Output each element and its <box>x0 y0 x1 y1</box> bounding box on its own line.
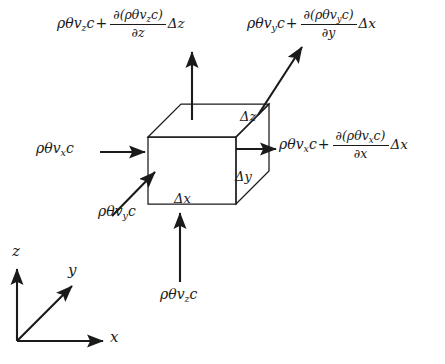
flux-top-z-denominator: ∂z <box>110 25 166 39</box>
label-axis-z: z <box>12 244 20 260</box>
flux-right-x-denominator: ∂x <box>333 146 389 160</box>
flux-top-z-delta: Δz <box>168 15 185 31</box>
flux-top-y-fraction: ∂(ρθvyc) ∂y <box>301 8 357 40</box>
flux-top-z-operator: + <box>94 15 108 31</box>
flux-top-z-numerator: ∂(ρθvzc) <box>110 8 166 25</box>
label-edge-dz: Δz <box>240 110 256 124</box>
flux-right-x-operator: + <box>317 136 331 152</box>
label-bottom-z-flux: ρθvzc <box>160 287 197 304</box>
figure-canvas: ρθvzc+ ∂(ρθvzc) ∂z Δz ρθvyc+ ∂(ρθvyc) ∂y… <box>0 0 445 364</box>
label-left-x-flux: ρθvxc <box>36 141 74 158</box>
label-top-z-flux: ρθvzc+ ∂(ρθvzc) ∂z Δz <box>57 8 185 40</box>
flux-top-y-denominator: ∂y <box>301 25 357 39</box>
label-diag-y-flux: ρθvyc <box>98 204 136 221</box>
label-edge-dy: Δy <box>235 170 252 184</box>
diagram-artwork <box>0 0 445 364</box>
arrow-top-y-flux <box>258 47 302 115</box>
flux-top-y-base-tail: c <box>277 15 285 31</box>
flux-bottom-z-base-tail: c <box>190 286 198 302</box>
cube-front-face <box>148 137 236 204</box>
label-edge-dx: Δx <box>174 192 191 206</box>
flux-left-x-base-tail: c <box>66 140 74 156</box>
flux-left-x-base: ρθv <box>36 140 61 156</box>
flux-top-y-delta: Δx <box>359 15 376 31</box>
flux-top-y-operator: + <box>285 15 299 31</box>
label-top-y-flux: ρθvyc+ ∂(ρθvyc) ∂y Δx <box>247 8 376 40</box>
label-axis-y: y <box>68 263 76 279</box>
flux-top-z-fraction: ∂(ρθvzc) ∂z <box>110 8 166 40</box>
flux-top-y-numerator: ∂(ρθvyc) <box>301 8 357 25</box>
flux-right-x-delta: Δx <box>391 136 408 152</box>
flux-right-x-numerator: ∂(ρθvxc) <box>333 129 389 146</box>
flux-right-x-fraction: ∂(ρθvxc) ∂x <box>333 129 389 161</box>
label-right-x-flux: ρθvxc+ ∂(ρθvxc) ∂x Δx <box>279 129 408 161</box>
flux-bottom-z-base: ρθv <box>160 286 185 302</box>
flux-diag-y-base-tail: c <box>128 203 136 219</box>
flux-right-x-base: ρθv <box>279 136 304 152</box>
flux-right-x-base-tail: c <box>309 136 317 152</box>
flux-top-y-base: ρθv <box>247 15 272 31</box>
flux-diag-y-base: ρθv <box>98 203 123 219</box>
flux-top-z-base: ρθv <box>57 15 82 31</box>
axis-arrow-y <box>17 286 72 341</box>
label-axis-x: x <box>110 330 118 346</box>
